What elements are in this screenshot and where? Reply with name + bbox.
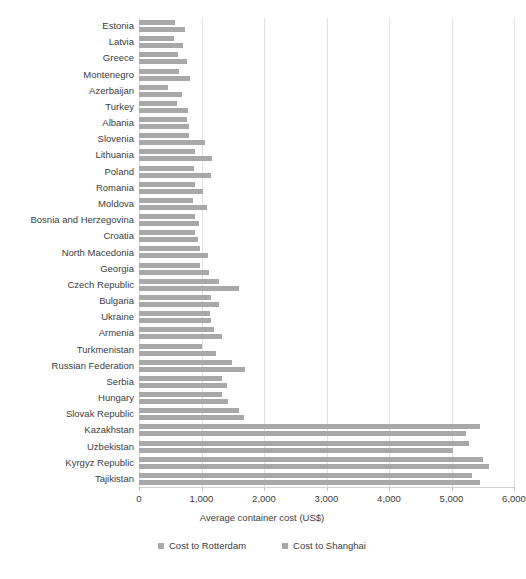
category-label: Czech Republic: [0, 280, 134, 290]
bar-shanghai: [139, 140, 205, 145]
bar-rotterdam: [139, 424, 480, 429]
bar-shanghai: [139, 270, 209, 275]
bar-group: [139, 390, 514, 406]
bar-group: [139, 455, 514, 471]
bar-shanghai: [139, 334, 222, 339]
bar-group: [139, 374, 514, 390]
x-tick-mark: [452, 487, 453, 491]
bar-group: [139, 471, 514, 487]
bar-rotterdam: [139, 20, 175, 25]
bar-rotterdam: [139, 392, 222, 397]
legend-item[interactable]: Cost to Shanghai: [282, 540, 366, 551]
x-tick-mark: [327, 487, 328, 491]
bar-rotterdam: [139, 441, 469, 446]
category-label: Armenia: [0, 328, 134, 338]
bar-shanghai: [139, 173, 211, 178]
bar-rotterdam: [139, 279, 219, 284]
bar-rotterdam: [139, 182, 195, 187]
x-tick-mark: [264, 487, 265, 491]
category-label: Moldova: [0, 199, 134, 209]
bar-rotterdam: [139, 85, 168, 90]
bar-shanghai: [139, 383, 227, 388]
bar-group: [139, 99, 514, 115]
clipped-caption-text: [14, 0, 510, 4]
category-label: Poland: [0, 167, 134, 177]
bar-rotterdam: [139, 311, 210, 316]
category-label: Russian Federation: [0, 361, 134, 371]
bar-rotterdam: [139, 133, 189, 138]
bar-group: [139, 406, 514, 422]
category-label: Latvia: [0, 37, 134, 47]
bar-rotterdam: [139, 295, 211, 300]
bar-shanghai: [139, 205, 207, 210]
bar-rotterdam: [139, 344, 202, 349]
bar-shanghai: [139, 253, 208, 258]
legend-swatch-icon: [158, 543, 164, 549]
bar-group: [139, 358, 514, 374]
x-axis-title: Average container cost (US$): [0, 512, 524, 523]
category-label: Serbia: [0, 377, 134, 387]
category-label: Lithuania: [0, 150, 134, 160]
category-label: Croatia: [0, 231, 134, 241]
bar-shanghai: [139, 156, 212, 161]
category-label: Estonia: [0, 21, 134, 31]
category-label: Uzbekistan: [0, 442, 134, 452]
x-tick-label: 5,000: [440, 493, 464, 504]
x-tick-label: 6,000: [502, 493, 526, 504]
bar-shanghai: [139, 286, 239, 291]
bar-rotterdam: [139, 327, 214, 332]
chart-legend: Cost to RotterdamCost to Shanghai: [0, 540, 524, 551]
legend-swatch-icon: [282, 543, 288, 549]
bar-group: [139, 180, 514, 196]
category-label: Azerbaijan: [0, 86, 134, 96]
bar-shanghai: [139, 43, 183, 48]
category-label: Turkmenistan: [0, 345, 134, 355]
category-label: Kazakhstan: [0, 425, 134, 435]
bar-shanghai: [139, 399, 228, 404]
category-label: Kyrgyz Republic: [0, 458, 134, 468]
bar-shanghai: [139, 108, 188, 113]
bar-shanghai: [139, 27, 185, 32]
bar-shanghai: [139, 415, 244, 420]
x-tick-mark: [389, 487, 390, 491]
bar-group: [139, 18, 514, 34]
category-label: Albania: [0, 118, 134, 128]
bar-shanghai: [139, 189, 203, 194]
category-label: Ukraine: [0, 312, 134, 322]
gridline-6000: [514, 18, 515, 487]
bar-shanghai: [139, 302, 219, 307]
bar-rotterdam: [139, 149, 195, 154]
bar-shanghai: [139, 92, 182, 97]
bar-group: [139, 277, 514, 293]
legend-label: Cost to Rotterdam: [169, 540, 246, 551]
bar-shanghai: [139, 124, 189, 129]
bar-group: [139, 325, 514, 341]
bar-shanghai: [139, 367, 245, 372]
category-axis-labels: EstoniaLatviaGreeceMontenegroAzerbaijanT…: [0, 18, 134, 487]
bar-shanghai: [139, 431, 466, 436]
bar-rotterdam: [139, 52, 178, 57]
bar-rotterdam: [139, 166, 194, 171]
x-tick-label: 4,000: [377, 493, 401, 504]
bar-group: [139, 164, 514, 180]
category-label: Bulgaria: [0, 296, 134, 306]
bar-rotterdam: [139, 408, 239, 413]
category-label: Slovenia: [0, 134, 134, 144]
bar-group: [139, 293, 514, 309]
bar-rotterdam: [139, 69, 179, 74]
bar-group: [139, 212, 514, 228]
category-label: Bosnia and Herzegovina: [0, 215, 134, 225]
legend-item[interactable]: Cost to Rotterdam: [158, 540, 246, 551]
plot-area: [139, 18, 514, 487]
x-tick-label: 2,000: [252, 493, 276, 504]
bar-group: [139, 341, 514, 357]
bar-shanghai: [139, 351, 216, 356]
category-label: Greece: [0, 53, 134, 63]
bar-rotterdam: [139, 263, 200, 268]
bar-shanghai: [139, 237, 198, 242]
bar-group: [139, 244, 514, 260]
bar-shanghai: [139, 59, 187, 64]
bar-group: [139, 196, 514, 212]
x-tick-mark: [202, 487, 203, 491]
